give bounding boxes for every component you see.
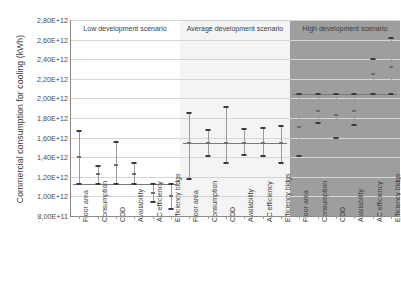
gridline <box>70 177 400 178</box>
range-mid-marker <box>224 142 228 144</box>
range-mid-marker <box>316 110 320 112</box>
gridline <box>70 98 400 99</box>
range-end-marker <box>77 183 82 185</box>
range-mid-marker <box>297 126 301 128</box>
x-tick-mark <box>299 216 300 219</box>
plot-area <box>70 20 400 216</box>
x-tick-label: Floor area <box>82 190 89 222</box>
y-axis-line <box>70 20 71 216</box>
y-tick-label: 8,00E+11 <box>38 212 68 221</box>
x-tick-label: Floor area <box>302 190 309 222</box>
gridline <box>70 59 400 60</box>
range-mid-marker <box>96 173 100 175</box>
x-tick-mark <box>189 216 190 219</box>
y-tick-label: 1,20E+12 <box>37 172 68 181</box>
scenario-label-low: Low development scenario <box>70 25 180 32</box>
range-end-marker <box>95 183 100 185</box>
range-stem <box>373 59 374 94</box>
range-end-marker <box>333 93 338 95</box>
y-tick-label: 2,80E+12 <box>37 16 68 25</box>
range-stem <box>226 107 227 163</box>
range-end-marker <box>315 122 320 124</box>
range-mid-marker <box>371 73 375 75</box>
range-end-marker <box>150 201 155 203</box>
range-end-marker <box>352 93 357 95</box>
range-end-marker <box>242 128 247 130</box>
range-end-marker <box>315 93 320 95</box>
baseline-average <box>183 143 286 144</box>
x-tick-label: Availability <box>247 189 254 222</box>
range-end-marker <box>297 155 302 157</box>
range-end-marker <box>333 137 338 139</box>
x-tick-mark <box>116 216 117 219</box>
range-end-marker <box>205 155 210 157</box>
range-mid-marker <box>352 110 356 112</box>
range-mid-marker <box>114 164 118 166</box>
range-stem <box>299 94 300 156</box>
x-tick-mark <box>354 216 355 219</box>
range-end-marker <box>223 162 228 164</box>
y-tick-label: 1,60E+12 <box>37 133 68 142</box>
range-mid-marker <box>389 66 393 68</box>
x-tick-mark <box>208 216 209 219</box>
range-mid-marker <box>334 114 338 116</box>
x-axis-line <box>70 216 400 217</box>
gridline <box>70 20 400 21</box>
x-tick-label: Efficiency bldgs <box>394 173 401 222</box>
range-end-marker <box>150 183 155 185</box>
range-end-marker <box>168 208 173 210</box>
x-tick-label: CDD <box>119 207 126 222</box>
range-end-marker <box>388 93 393 95</box>
range-mid-marker <box>187 142 191 144</box>
x-tick-label: Availability <box>137 189 144 222</box>
x-tick-mark <box>336 216 337 219</box>
y-tick-label: 1,80E+12 <box>37 114 68 123</box>
y-tick-label: 2,60E+12 <box>37 35 68 44</box>
range-end-marker <box>388 37 393 39</box>
range-end-marker <box>260 127 265 129</box>
x-tick-mark <box>171 216 172 219</box>
range-end-marker <box>187 112 192 114</box>
scenario-label-average: Average development scenario <box>180 25 290 32</box>
range-end-marker <box>352 124 357 126</box>
range-end-marker <box>187 178 192 180</box>
gridline <box>70 196 400 197</box>
range-mid-marker <box>206 142 210 144</box>
range-stem <box>189 113 190 180</box>
x-tick-label: Efficiency bldgs <box>174 173 181 222</box>
gridline <box>70 40 400 41</box>
sensitivity-tornado-chart: Commercial consumption for cooling (kWh)… <box>0 0 401 290</box>
scenario-label-high: High development scenario <box>290 25 400 32</box>
x-tick-label: Floor area <box>192 190 199 222</box>
range-end-marker <box>223 106 228 108</box>
range-end-marker <box>132 162 137 164</box>
range-mid-marker <box>132 173 136 175</box>
y-tick-label: 2,00E+12 <box>37 94 68 103</box>
range-end-marker <box>132 183 137 185</box>
range-mid-marker <box>151 192 155 194</box>
range-end-marker <box>297 93 302 95</box>
gridline <box>70 79 400 80</box>
x-tick-label: Availability <box>357 189 364 222</box>
y-tick-label: 1,40E+12 <box>37 153 68 162</box>
x-tick-mark <box>134 216 135 219</box>
x-tick-label: CDD <box>229 207 236 222</box>
range-mid-marker <box>77 156 81 158</box>
x-tick-label: Efficiency bldgs <box>284 173 291 222</box>
range-end-marker <box>77 130 82 132</box>
baseline-high <box>293 94 396 95</box>
gridline <box>70 118 400 119</box>
range-stem <box>281 126 282 162</box>
gridline <box>70 138 400 139</box>
x-tick-mark <box>244 216 245 219</box>
range-end-marker <box>113 183 118 185</box>
range-mid-marker <box>261 142 265 144</box>
y-tick-label: 2,20E+12 <box>37 74 68 83</box>
x-tick-mark <box>263 216 264 219</box>
y-axis-tick-labels: 2,80E+122,60E+122,40E+122,20E+122,00E+12… <box>26 0 68 290</box>
x-tick-mark <box>391 216 392 219</box>
x-tick-mark <box>318 216 319 219</box>
x-tick-mark <box>281 216 282 219</box>
range-end-marker <box>95 165 100 167</box>
range-end-marker <box>370 93 375 95</box>
